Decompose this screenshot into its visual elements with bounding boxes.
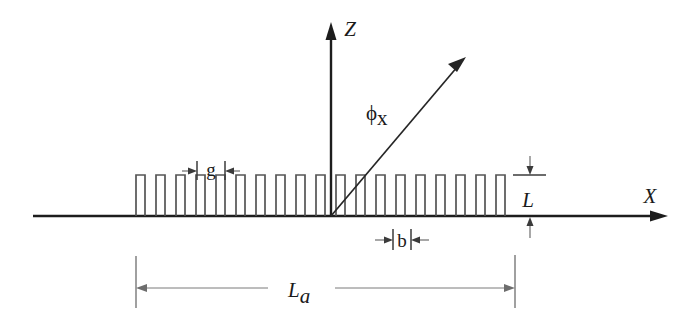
tooth xyxy=(176,175,185,216)
La-symbol: L xyxy=(287,278,300,302)
x-axis-arrowhead xyxy=(650,211,668,222)
tooth xyxy=(416,175,425,216)
tooth xyxy=(136,175,145,216)
tooth xyxy=(316,175,325,216)
phi-x-label: ϕx xyxy=(366,101,388,130)
La-subscript: a xyxy=(300,284,311,308)
dimension-gap: g xyxy=(182,159,240,180)
ray-line xyxy=(331,66,458,216)
tooth xyxy=(396,175,405,216)
z-axis: Z xyxy=(326,17,357,216)
gap-label: g xyxy=(206,159,216,180)
dimension-tooth-width: b xyxy=(375,229,429,251)
tooth xyxy=(336,175,345,216)
x-axis-label: X xyxy=(643,184,658,208)
aperture-length-label: La xyxy=(287,278,310,308)
tooth xyxy=(256,175,265,216)
phi-symbol: ϕ xyxy=(366,101,377,125)
tooth xyxy=(436,175,445,216)
grating-teeth-array xyxy=(136,175,505,216)
phi-subscript: x xyxy=(377,106,388,130)
tooth xyxy=(376,175,385,216)
L-arrowhead-bottom xyxy=(527,217,534,226)
La-arrowhead-right xyxy=(504,284,515,292)
gap-arrowhead-right xyxy=(225,168,234,175)
tooth xyxy=(456,175,465,216)
z-axis-arrowhead xyxy=(326,22,337,40)
tooth xyxy=(236,175,245,216)
grating-antenna-diagram: X Z xyxy=(0,0,698,325)
b-arrowhead-right xyxy=(411,237,420,244)
figure-canvas: X Z xyxy=(0,0,698,325)
b-arrowhead-left xyxy=(384,237,393,244)
tooth xyxy=(216,175,225,216)
tooth xyxy=(156,175,165,216)
dimension-tooth-depth: L xyxy=(513,156,546,238)
tooth xyxy=(196,175,205,216)
La-arrowhead-left xyxy=(136,284,147,292)
dimension-aperture-length: La xyxy=(136,255,515,308)
L-arrowhead-top xyxy=(527,166,534,175)
x-axis: X xyxy=(33,184,668,222)
tooth xyxy=(276,175,285,216)
ray-arrowhead xyxy=(448,57,466,72)
gap-arrowhead-left xyxy=(188,168,197,175)
tooth xyxy=(476,175,485,216)
tooth xyxy=(296,175,305,216)
tooth-width-label: b xyxy=(397,230,407,251)
z-axis-label: Z xyxy=(344,17,356,41)
tooth-depth-label: L xyxy=(521,188,534,212)
tooth xyxy=(496,175,505,216)
